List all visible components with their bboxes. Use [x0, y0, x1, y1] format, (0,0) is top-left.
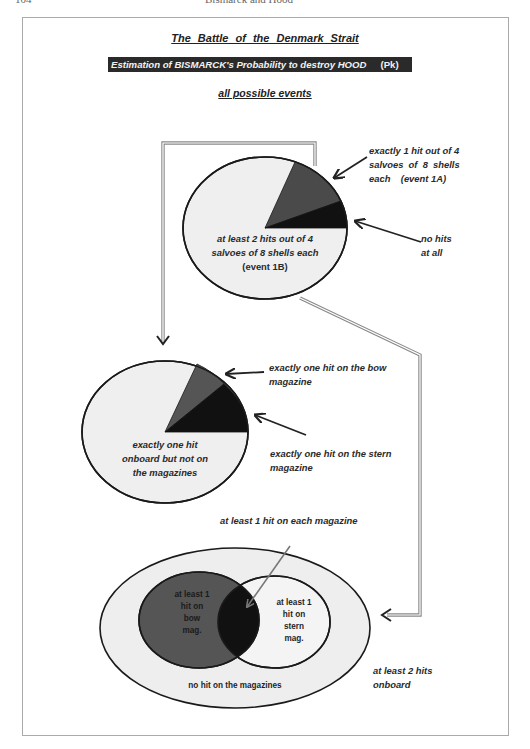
pie2-inner-line2: onboard but not on: [101, 452, 229, 466]
bow-label-line1: at least 1: [162, 589, 222, 601]
pie2-callout-stern: exactly one hit on the stern magazine: [270, 447, 391, 475]
pie1-inner-line1: at least 2 hits out of 4: [201, 232, 329, 246]
pie2-callout-bow: exactly one hit on the bow magazine: [269, 361, 386, 389]
callout-1a-line1: exactly 1 hit out of 4: [369, 144, 460, 158]
pie2-inner-label: exactly one hit onboard but not on the m…: [101, 438, 229, 480]
bow-label-line3: bow: [162, 613, 222, 625]
pie1-inner-line2: salvoes of 8 shells each: [201, 246, 329, 260]
callout-no-hits-line2: at all: [421, 246, 452, 260]
callout-stern-line1: exactly one hit on the stern: [270, 447, 391, 461]
callout-no-hits-line1: no hits: [421, 232, 452, 246]
callout-arrow-no-hits: [355, 221, 421, 242]
stern-label-line1: at least 1: [264, 597, 324, 609]
stern-label-line2: hit on: [264, 609, 324, 621]
callout-stern-line2: magazine: [270, 461, 391, 475]
callout-arrow-event-1a: [334, 157, 367, 178]
pie-chart-1: [183, 157, 347, 299]
callout-1a-line3: each (event 1A): [369, 172, 460, 186]
pie1-inner-line3: (event 1B): [201, 260, 329, 274]
outside-label-line1: at least 2 hits: [373, 664, 432, 678]
callout-1a-line2: salvoes of 8 shells: [369, 158, 460, 172]
venn-intersection-callout: at least 1 hit on each magazine: [220, 514, 358, 528]
venn-stern-label: at least 1 hit on stern mag.: [264, 597, 324, 645]
venn-bow-label: at least 1 hit on bow mag.: [162, 589, 222, 637]
pie1-inner-label: at least 2 hits out of 4 salvoes of 8 sh…: [201, 232, 329, 274]
pie-chart-2: [82, 361, 248, 503]
stern-label-line3: stern: [264, 621, 324, 633]
pie2-inner-line3: the magazines: [101, 466, 229, 480]
venn-outside-label: at least 2 hits onboard: [373, 664, 432, 692]
callout-bow-line2: magazine: [269, 375, 386, 389]
outside-label-line2: onboard: [373, 678, 432, 692]
callout-bow-line1: exactly one hit on the bow: [269, 361, 386, 375]
pie1-callout-no-hits: no hits at all: [421, 232, 452, 260]
callout-arrow-bow: [226, 372, 264, 374]
venn-outer-label: no hit on the magazines: [160, 680, 310, 692]
bow-label-line4: mag.: [162, 625, 222, 637]
callout-arrow-stern: [255, 415, 306, 435]
bow-label-line2: hit on: [162, 601, 222, 613]
pie2-inner-line1: exactly one hit: [101, 438, 229, 452]
pie1-callout-event-1a: exactly 1 hit out of 4 salvoes of 8 shel…: [369, 144, 460, 186]
stern-label-line4: mag.: [264, 633, 324, 645]
